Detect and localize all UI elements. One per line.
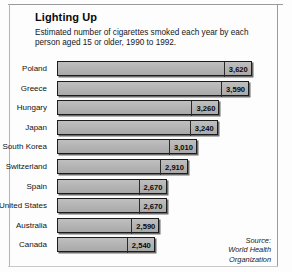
bar-value-label: 3,590 <box>221 82 248 97</box>
bar-value-label: 3,620 <box>224 62 251 77</box>
bar-value-label: 3,260 <box>191 101 218 116</box>
category-label: Spain <box>27 179 47 194</box>
bar-row: 3,240 <box>57 120 259 135</box>
bar-row: 3,010 <box>57 139 259 154</box>
bar-row: 2,910 <box>57 159 259 174</box>
chart-title: Lighting Up <box>35 11 97 23</box>
bar-chart-plot: 3,6203,5903,2603,2403,0102,9102,6702,670… <box>57 61 259 259</box>
bar-row: 3,620 <box>57 61 259 76</box>
bar-row: 3,260 <box>57 100 259 115</box>
page-rule-bottom <box>8 266 278 267</box>
bar: 3,260 <box>57 100 219 115</box>
category-label: Poland <box>22 61 47 76</box>
bar-value-label: 2,590 <box>131 219 158 234</box>
source-line-2: World Health <box>205 245 271 254</box>
bar-row: 2,670 <box>57 198 259 213</box>
bar: 2,540 <box>57 237 155 252</box>
bar: 3,010 <box>57 139 197 154</box>
category-label: Switzerland <box>6 159 47 174</box>
bar: 3,240 <box>57 120 218 135</box>
source-line-3: Organization <box>205 255 271 264</box>
bar-value-label: 2,670 <box>139 199 166 214</box>
category-label: Canada <box>19 237 47 252</box>
category-label: Hungary <box>17 100 47 115</box>
category-label: Greece <box>21 81 47 96</box>
bar-value-label: 2,540 <box>127 238 154 253</box>
bar-value-label: 2,670 <box>139 180 166 195</box>
bar-value-label: 2,910 <box>160 160 187 175</box>
category-label: Japan <box>25 120 47 135</box>
category-label: South Korea <box>3 139 47 154</box>
bar-row: 3,590 <box>57 81 259 96</box>
bar: 2,670 <box>57 179 167 194</box>
bar-row: 2,670 <box>57 179 259 194</box>
page-rule-right <box>277 4 278 266</box>
source-attribution: Source: World Health Organization <box>205 236 271 264</box>
bar-value-label: 3,240 <box>190 121 217 136</box>
category-label: United States <box>0 198 47 213</box>
bar-value-label: 3,010 <box>169 140 196 155</box>
chart-page: Lighting Up Estimated number of cigarett… <box>0 0 292 272</box>
bar: 3,620 <box>57 61 252 76</box>
bar: 2,910 <box>57 159 188 174</box>
bar: 2,670 <box>57 198 167 213</box>
bar: 2,590 <box>57 218 159 233</box>
source-line-1: Source: <box>205 236 271 245</box>
category-label: Australia <box>16 218 47 233</box>
category-label-column: PolandGreeceHungaryJapanSouth KoreaSwitz… <box>0 61 52 259</box>
page-rule-top <box>8 4 283 5</box>
bar-row: 2,590 <box>57 218 259 233</box>
chart-subtitle: Estimated number of cigarettes smoked ea… <box>35 28 261 49</box>
bar: 3,590 <box>57 81 249 96</box>
